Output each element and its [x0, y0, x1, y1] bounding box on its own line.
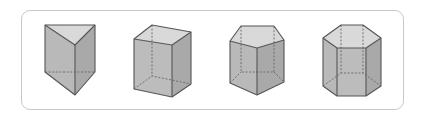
prisms-figure — [0, 0, 423, 117]
pentagonal-prism — [230, 26, 284, 95]
hexagonal-prism — [323, 25, 381, 96]
rectangular-prism — [134, 25, 191, 97]
triangular-prism — [45, 25, 95, 95]
